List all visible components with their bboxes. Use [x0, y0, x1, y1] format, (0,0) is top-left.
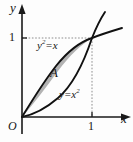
x-axis-label: x [121, 112, 127, 125]
math-figure: y x O 1 1 y2=x y=x2 A [0, 0, 133, 142]
curve-label-y-equals-x-squared: y=x2 [59, 89, 80, 100]
curve-label-y-squared-equals-x: y2=x [37, 40, 58, 51]
origin-label: O [8, 120, 17, 132]
region-label-a: A [50, 66, 58, 79]
figure-canvas [0, 0, 133, 142]
curve-upper-equals: =x [45, 39, 57, 51]
curve-lower-exponent: 2 [76, 87, 79, 94]
y-axis-label: y [10, 1, 16, 14]
y-axis-arrow-icon [18, 4, 25, 14]
y-axis-tick-label-one: 1 [9, 31, 15, 43]
x-axis-tick-label-one: 1 [88, 120, 94, 132]
curve-lower-base: y=x [59, 88, 76, 100]
